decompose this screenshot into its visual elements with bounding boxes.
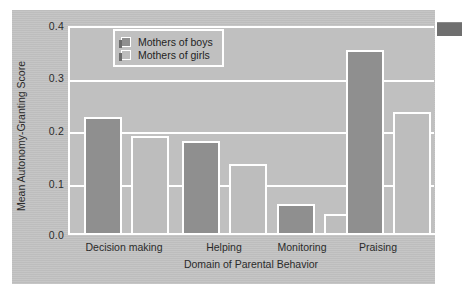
bar-decision-making-boys[interactable] [84,117,122,235]
bar-monitoring-boys[interactable] [277,204,315,235]
chart-legend: Mothers of boys Mothers of girls [113,29,224,67]
y-tick-label-0.3: 0.3 [30,72,64,84]
legend-swatch-girls-icon [121,50,131,60]
y-tick-label-0.4: 0.4 [30,20,64,32]
bar-group-praising [338,26,430,235]
legend-label-girls: Mothers of girls [138,49,210,61]
x-axis-baseline [68,233,436,235]
bar-helping-boys[interactable] [182,141,220,235]
y-tick-label-0.0: 0.0 [30,229,64,241]
bar-shadow [126,143,133,238]
legend-item-girls[interactable]: Mothers of girls [121,48,213,61]
y-tick-label-0.1: 0.1 [30,178,64,190]
bar-shadow [341,57,348,238]
figure-container: Mean Autonomy-Granting Score 0.4 0.3 0.2… [0,0,462,294]
legend-label-boys: Mothers of boys [138,36,213,48]
bar-praising-girls[interactable] [393,112,431,235]
bar-shadow [79,124,86,238]
x-axis-title: Domain of Parental Behavior [68,258,434,270]
bar-shadow [177,148,184,238]
bar-shadow [388,119,395,238]
legend-item-boys[interactable]: Mothers of boys [121,35,213,48]
bar-decision-making-girls[interactable] [131,136,169,235]
y-tick-label-0.2: 0.2 [30,125,64,137]
bar-shadow [224,171,231,238]
bar-helping-girls[interactable] [229,164,267,235]
bar-praising-boys[interactable] [346,50,384,235]
legend-swatch-boys-icon [121,37,131,47]
edge-tab-marker [437,22,462,36]
x-tick-label-praising: Praising [312,241,444,253]
